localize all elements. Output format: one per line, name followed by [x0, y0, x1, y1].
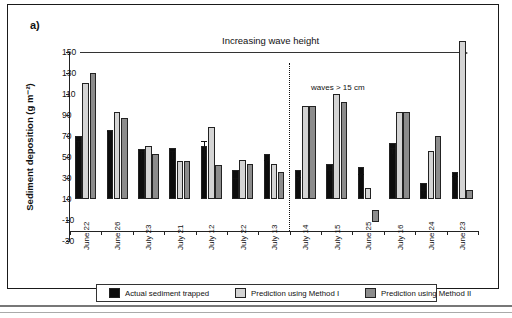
- error-bar-cap: [170, 151, 175, 152]
- error-bar-cap: [421, 190, 426, 191]
- x-axis-tick-label-text: July 22: [239, 238, 248, 250]
- bar-group: [420, 52, 441, 230]
- error-bar-cap: [201, 141, 206, 142]
- legend-swatch: [109, 288, 120, 298]
- bar: [145, 146, 152, 199]
- x-axis-tick-label: July 15: [333, 238, 345, 247]
- x-axis-tick-label: July 13: [270, 238, 282, 247]
- bar: [208, 127, 215, 198]
- bar-group: [107, 52, 128, 230]
- bar: [278, 172, 285, 198]
- bar: [333, 94, 340, 199]
- x-axis-tick-label-text: July 21: [176, 238, 185, 250]
- x-axis-tick-mark: [227, 231, 228, 235]
- bar: [435, 136, 442, 199]
- page-divider-rule: [0, 305, 512, 307]
- x-axis-tick-label: July 14: [301, 238, 313, 247]
- x-axis-tick-label: July 22: [239, 238, 251, 247]
- legend-swatch: [365, 288, 376, 298]
- bar: [365, 188, 372, 199]
- x-axis-tick-label: June 25: [364, 238, 376, 247]
- bar-group: [75, 52, 96, 230]
- error-bar-cap: [390, 148, 395, 149]
- bar-group: [169, 52, 190, 230]
- y-axis-title: Sediment deposition (g m⁻²): [22, 52, 36, 241]
- x-axis-tick-label: June 22: [82, 238, 94, 247]
- y-axis-tick-mark: [66, 52, 70, 53]
- bar: [114, 112, 121, 198]
- x-axis-tick-label-text: June 25: [364, 238, 373, 250]
- error-bar: [109, 131, 110, 142]
- x-axis-tick-mark: [447, 231, 448, 235]
- bar-group: [358, 52, 379, 230]
- error-bar: [172, 151, 173, 159]
- x-axis-tick-label-text: July 14: [301, 238, 310, 250]
- y-axis-tick-mark: [66, 94, 70, 95]
- x-axis-tick-label-text: July 15: [333, 238, 342, 250]
- bar: [215, 165, 222, 199]
- bar-group: [264, 52, 285, 230]
- bar: [466, 190, 473, 198]
- legend-label: Actual sediment trapped: [125, 289, 209, 298]
- bar: [232, 170, 239, 198]
- chart-legend: Actual sediment trappedPrediction using …: [96, 284, 437, 302]
- bar-group: [389, 52, 410, 230]
- bar: [358, 167, 365, 199]
- x-axis-tick-label-text: July 12: [207, 238, 216, 250]
- legend-swatch: [235, 288, 246, 298]
- bar-group: [201, 52, 222, 230]
- error-bar-cap: [233, 178, 238, 179]
- error-bar-cap: [327, 170, 332, 171]
- x-axis-tick-mark: [478, 231, 479, 235]
- error-bar-cap: [107, 131, 112, 132]
- bar: [82, 83, 89, 199]
- plot-area: [70, 52, 478, 230]
- y-axis-tick-mark: [66, 241, 70, 242]
- x-axis-tick-label-text: July 23: [144, 238, 153, 250]
- legend-item: Actual sediment trapped: [109, 288, 209, 298]
- bar-group: [138, 52, 159, 230]
- bar: [428, 151, 435, 198]
- bar: [177, 161, 184, 199]
- y-axis-tick-mark: [66, 178, 70, 179]
- x-axis-tick-mark: [384, 231, 385, 235]
- error-bar-cap: [264, 160, 269, 161]
- figure-screenshot: a) Sediment deposition (g m⁻²) Increasin…: [0, 0, 512, 318]
- bar-group: [452, 52, 473, 230]
- x-axis-tick-mark: [164, 231, 165, 235]
- x-axis-tick-mark: [196, 231, 197, 235]
- y-axis-title-text: Sediment deposition (g m⁻²): [24, 83, 35, 210]
- error-bar: [204, 141, 205, 157]
- x-axis-tick-mark: [70, 231, 71, 235]
- x-axis-tick-label: July 12: [207, 238, 219, 247]
- y-axis-tick-mark: [66, 199, 70, 200]
- x-axis-tick-label-text: June 26: [113, 238, 122, 250]
- page-divider-rule-secondary: [0, 312, 512, 313]
- error-bar-cap: [139, 151, 144, 152]
- bar-group: [295, 52, 316, 230]
- legend-item: Prediction using Method I: [235, 288, 339, 298]
- bar: [247, 164, 254, 199]
- x-axis-tick-label-text: July 13: [270, 238, 279, 250]
- bar: [271, 164, 278, 199]
- y-axis-tick-mark: [66, 157, 70, 158]
- bar: [239, 160, 246, 199]
- legend-item: Prediction using Method II: [365, 288, 471, 298]
- x-axis-tick-mark: [101, 231, 102, 235]
- bar: [459, 41, 466, 199]
- legend-label: Prediction using Method I: [251, 289, 339, 298]
- bar: [341, 102, 348, 199]
- x-axis-tick-mark: [321, 231, 322, 235]
- error-bar: [141, 151, 142, 160]
- increasing-wave-annotation: Increasing wave height: [222, 35, 319, 46]
- x-axis-tick-label: July 16: [396, 238, 408, 247]
- bar-group: [232, 52, 253, 230]
- x-axis-tick-label-text: June 24: [427, 238, 436, 250]
- panel-label: a): [30, 19, 40, 31]
- x-axis-tick-mark: [352, 231, 353, 235]
- bar: [396, 112, 403, 198]
- bar: [302, 106, 309, 198]
- x-axis-tick-label: June 23: [458, 238, 470, 247]
- x-axis-tick-label: July 23: [144, 238, 156, 247]
- y-axis-tick-mark: [66, 115, 70, 116]
